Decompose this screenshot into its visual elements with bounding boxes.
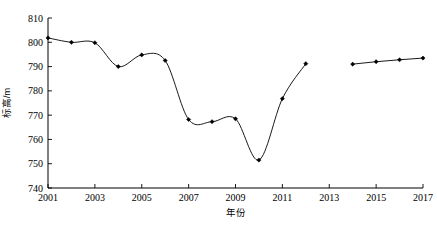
x-tick-label: 2007: [179, 192, 199, 203]
line-chart: 7407507607707807908008102001200320052007…: [0, 0, 437, 235]
y-tick-label: 810: [28, 13, 43, 24]
data-point-marker: [116, 64, 120, 68]
data-point-marker: [46, 36, 50, 40]
x-tick-label: 2017: [413, 192, 433, 203]
series-line: [48, 38, 306, 160]
x-tick-label: 2009: [226, 192, 246, 203]
y-tick-label: 750: [28, 158, 43, 169]
axis-lines: [48, 18, 423, 188]
x-tick-label: 2013: [319, 192, 339, 203]
chart-container: 7407507607707807908008102001200320052007…: [0, 0, 437, 235]
y-tick-label: 760: [28, 134, 43, 145]
data-point-marker: [374, 60, 378, 64]
data-point-marker: [210, 120, 214, 124]
data-point-marker: [421, 56, 425, 60]
y-tick-label: 770: [28, 110, 43, 121]
data-point-marker: [140, 53, 144, 57]
x-axis-title: 年份: [226, 207, 246, 218]
y-axis-title: 标高/m: [1, 88, 12, 119]
y-tick-label: 790: [28, 61, 43, 72]
data-point-marker: [69, 40, 73, 44]
x-tick-label: 2001: [38, 192, 58, 203]
data-point-marker: [397, 58, 401, 62]
data-point-marker: [280, 97, 284, 101]
data-point-marker: [351, 62, 355, 66]
y-tick-label: 800: [28, 37, 43, 48]
x-tick-label: 2003: [85, 192, 105, 203]
series-line: [353, 58, 423, 64]
x-tick-label: 2011: [273, 192, 293, 203]
y-tick-label: 780: [28, 85, 43, 96]
x-tick-label: 2015: [366, 192, 386, 203]
x-tick-label: 2005: [132, 192, 152, 203]
